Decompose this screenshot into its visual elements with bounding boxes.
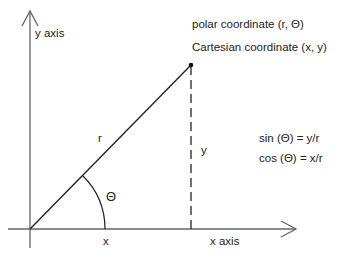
radius-line <box>30 65 191 229</box>
sin-formula: sin (Θ) = y/r <box>259 133 319 145</box>
point-marker <box>189 63 194 68</box>
x-axis-label: x axis <box>210 236 239 248</box>
cos-formula: cos (Θ) = x/r <box>259 153 323 165</box>
angle-arc <box>83 176 106 230</box>
theta-label: Θ <box>106 190 116 203</box>
y-label: y <box>201 145 207 157</box>
y-axis-label: y axis <box>35 28 64 40</box>
x-label: x <box>103 236 109 248</box>
cartesian-coordinate-label: Cartesian coordinate (x, y) <box>192 42 327 54</box>
r-label: r <box>98 133 102 145</box>
polar-coordinate-label: polar coordinate (r, Θ) <box>192 19 304 31</box>
